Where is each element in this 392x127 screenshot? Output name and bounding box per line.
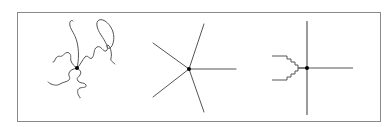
stepped-arm-lower	[272, 68, 307, 80]
diagram-frame	[18, 13, 381, 122]
straight-arm-upper-right	[189, 24, 204, 69]
polymer-architecture-diagram	[0, 0, 392, 127]
straight-arm-upper-left	[153, 43, 189, 69]
junction-node	[187, 67, 191, 71]
coiled-arm-up-right	[77, 20, 115, 68]
stepped-arm-upper	[272, 56, 307, 68]
coiled-arm-left	[53, 52, 77, 68]
straight-arm-lower-left	[153, 69, 189, 97]
straight-arm-lower-right	[189, 69, 204, 112]
coiled-arm-lower-left	[48, 68, 77, 85]
junction-node	[75, 66, 79, 70]
stepped-branch-figure	[272, 21, 353, 115]
coiled-arm-down	[77, 68, 86, 98]
flexible-star-figure	[48, 20, 115, 98]
junction-node	[305, 66, 309, 70]
rigid-star-figure	[153, 24, 236, 112]
